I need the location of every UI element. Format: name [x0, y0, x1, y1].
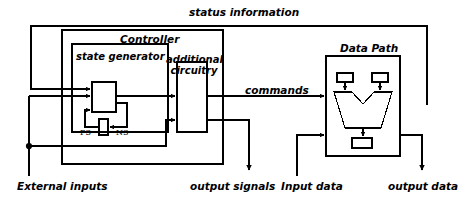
commands-label: commands: [245, 84, 309, 96]
present-state-feedback-wire: [85, 110, 99, 127]
external-inputs-junction-dot: [26, 143, 32, 149]
external-inputs-label: External inputs: [17, 180, 107, 192]
alu-shape: [334, 92, 392, 128]
input-data-wire: [297, 135, 324, 176]
datapath-output-register: [352, 138, 372, 148]
status-information-wire: [31, 26, 427, 105]
output-signals-label: output signals: [190, 180, 275, 192]
data-path-box: [326, 56, 400, 156]
output-signals-wire: [207, 120, 249, 170]
state-register-box: [99, 119, 108, 135]
ps-label: PS: [80, 128, 91, 137]
status-information-label: status information: [189, 6, 299, 18]
controller-label: Controller: [120, 33, 179, 45]
external-inputs-to-additional-circuitry-wire: [29, 120, 175, 146]
additional-circuitry-label-line1: additional: [166, 54, 222, 65]
input-data-label: Input data: [281, 180, 343, 192]
next-state-feedback-wire: [110, 103, 127, 127]
datapath-input-register-left: [337, 73, 353, 82]
state-generator-label: state generator: [76, 51, 165, 62]
datapath-input-register-right: [372, 73, 388, 82]
additional-circuitry-label-line2: circuitry: [166, 65, 222, 76]
state-generator-logic-box: [92, 82, 116, 112]
output-data-wire: [400, 135, 422, 170]
diagram-svg: [0, 0, 471, 200]
block-diagram-canvas: status information Controller state gene…: [0, 0, 471, 200]
output-data-label: output data: [388, 180, 458, 192]
diagram-vector-layer: [0, 0, 471, 200]
data-path-label: Data Path: [340, 42, 398, 54]
ns-label: NS: [116, 128, 128, 137]
